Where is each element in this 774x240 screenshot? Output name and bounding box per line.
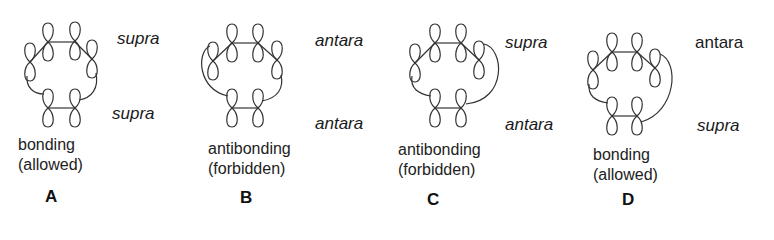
- diagram-c: [410, 24, 499, 127]
- panel-b-letter: B: [240, 188, 252, 208]
- panel-b-top-component: antara: [315, 31, 363, 51]
- panel-d-bottom-component: supra: [697, 116, 740, 136]
- panel-d-caption-line2: (allowed): [593, 165, 658, 185]
- diagram-b: [202, 24, 283, 127]
- panel-a-caption-line1: bonding: [18, 135, 75, 155]
- panel-c-bottom-component: antara: [505, 115, 553, 135]
- panel-a-letter: A: [45, 187, 57, 207]
- panel-b-caption-line1: antibonding: [208, 139, 291, 159]
- panel-d-caption-line1: bonding: [593, 145, 650, 165]
- panel-c-caption-line1: antibonding: [398, 140, 481, 160]
- diagram-a: [25, 22, 98, 127]
- panel-a-bottom-component: supra: [112, 104, 155, 124]
- panel-b-caption-line2: (forbidden): [208, 159, 285, 179]
- diagram-d: [588, 33, 672, 135]
- panel-c-letter: C: [427, 190, 439, 210]
- panel-a-caption-line2: (allowed): [18, 155, 83, 175]
- panel-d-letter: D: [622, 190, 634, 210]
- panel-d-top-component: antara: [695, 33, 743, 53]
- panel-c-top-component: supra: [505, 33, 548, 53]
- panel-b-bottom-component: antara: [315, 114, 363, 134]
- panel-c-caption-line2: (forbidden): [398, 160, 475, 180]
- panel-a-top-component: supra: [117, 29, 160, 49]
